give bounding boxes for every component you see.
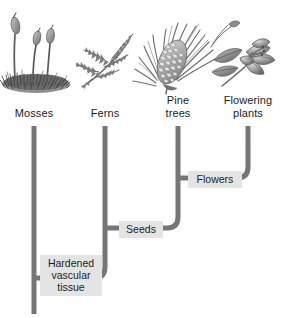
taxon-label-pine-trees: Pine trees [150, 94, 206, 119]
fern-illustration [76, 34, 133, 89]
moss-illustration [0, 13, 70, 93]
trait-label-seeds: Seeds [119, 221, 163, 238]
pine-cone-illustration [133, 23, 215, 94]
trait-label-flowers: Flowers [188, 171, 242, 188]
cladogram-figure: Mosses Ferns Pine trees Flowering plants… [0, 0, 290, 318]
taxon-label-mosses: Mosses [4, 107, 64, 120]
trait-label-hardened-vascular-tissue: Hardened vascular tissue [40, 255, 102, 296]
flowering-plant-illustration [211, 21, 275, 86]
taxon-label-ferns: Ferns [77, 107, 133, 120]
taxon-stems [34, 126, 248, 150]
branch-pine-to-seeds-node [105, 150, 178, 228]
taxon-label-flowering-plants: Flowering plants [210, 94, 286, 119]
